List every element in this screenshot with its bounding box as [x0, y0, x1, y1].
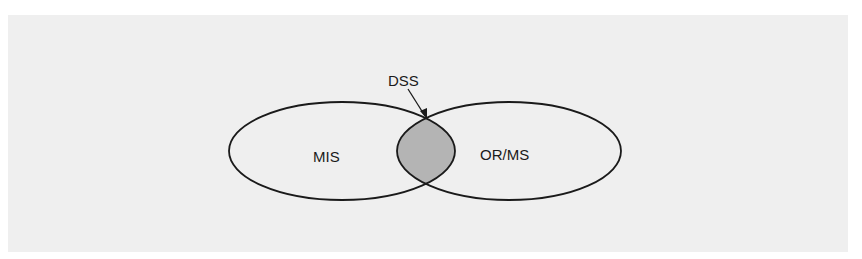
venn-diagram: DSS MIS OR/MS: [0, 0, 862, 259]
mis-label: MIS: [313, 148, 340, 165]
dss-label: DSS: [388, 72, 419, 89]
orms-label: OR/MS: [480, 146, 529, 163]
